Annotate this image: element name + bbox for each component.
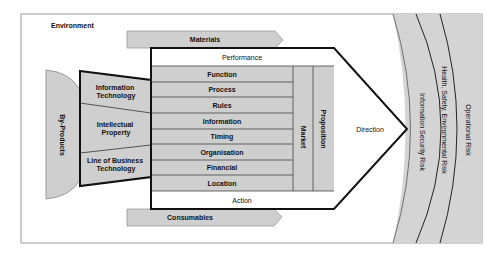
core-row-function: Function — [207, 71, 237, 78]
core-performance: Performance — [222, 54, 262, 61]
core-column-market: Market — [300, 126, 307, 149]
core-row-information: Information — [203, 118, 242, 125]
risk-information-security: Information Security Risk — [418, 93, 426, 171]
by-products-label: By-Products — [58, 114, 66, 156]
risk-operational: Operational Risk — [464, 104, 472, 156]
core-row-process: Process — [208, 86, 235, 93]
consumables-label: Consumables — [167, 214, 213, 221]
core-row-organisation: Organisation — [200, 149, 243, 157]
core-row-timing: Timing — [211, 133, 234, 141]
environment-label: Environment — [51, 22, 94, 29]
core-row-rules: Rules — [212, 102, 231, 109]
materials-label: Materials — [190, 36, 220, 43]
capability-ip: Intellectual Property — [97, 121, 136, 137]
core-column-proposition: Proposition — [319, 110, 327, 149]
risk-hse: Health, Safety, Environmental Risk — [440, 66, 448, 174]
core-row-financial: Financial — [207, 164, 237, 171]
capability-it: Information Technology — [96, 84, 136, 100]
core-row-location: Location — [207, 180, 236, 187]
core-action: Action — [232, 197, 252, 204]
environment-diagram: Environment Information Security Risk He… — [0, 0, 503, 258]
direction-label: Direction — [356, 126, 384, 133]
